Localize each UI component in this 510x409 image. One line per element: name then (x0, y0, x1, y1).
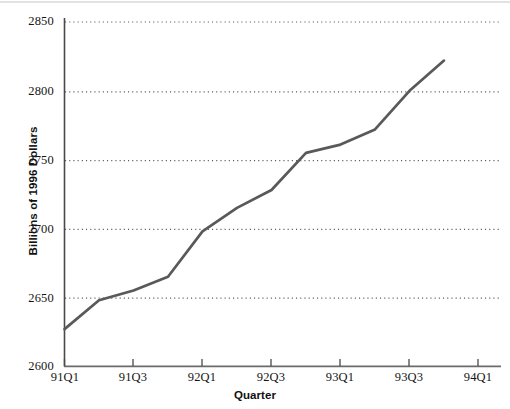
x-tick-label-92q3: 92Q3 (239, 370, 303, 385)
x-tick-label-94q1: 94Q1 (446, 370, 510, 385)
y-axis-title: Billions of 1996 Dollars (27, 96, 39, 286)
line-chart-plot (0, 0, 510, 409)
y-tick-label-2850: 2850 (8, 14, 54, 29)
chart-figure: 2850 2800 2750 2700 2650 2600 91Q1 91Q3 … (0, 0, 510, 409)
x-tick-label-93q3: 93Q3 (377, 370, 441, 385)
y-tick-label-2650: 2650 (8, 291, 54, 306)
data-series-line (65, 61, 445, 330)
gridlines (65, 22, 501, 298)
x-tick-label-93q1: 93Q1 (308, 370, 372, 385)
x-axis-title: Quarter (0, 389, 510, 401)
x-tick-marks (65, 359, 479, 366)
x-tick-label-92q1: 92Q1 (170, 370, 234, 385)
x-tick-label-91q1: 91Q1 (33, 370, 97, 385)
x-tick-label-91q3: 91Q3 (101, 370, 165, 385)
